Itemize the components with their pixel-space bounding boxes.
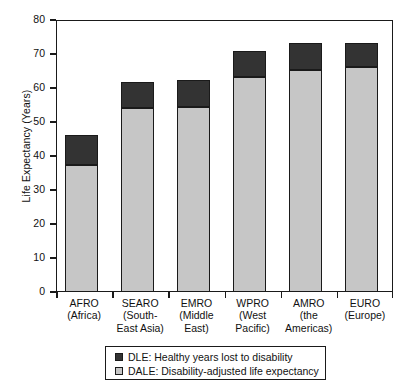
bar-group xyxy=(121,20,154,292)
y-tick-label: 60 xyxy=(0,81,45,93)
plot-area xyxy=(56,20,393,292)
x-axis-category-line: (Europe) xyxy=(337,309,393,321)
y-tick-mark xyxy=(50,87,56,89)
bar-segment-dle xyxy=(121,82,154,108)
x-axis-category-line: Pacific) xyxy=(225,322,281,334)
x-axis-category-line: (the xyxy=(281,309,337,321)
chart-legend: DLE: Healthy years lost to disability DA… xyxy=(105,346,326,380)
bar-segment-dle xyxy=(177,80,210,107)
y-tick-label: 40 xyxy=(0,149,45,161)
bar-segment-dale xyxy=(121,108,154,292)
bar-segment-dle xyxy=(345,43,378,67)
bar-group xyxy=(289,20,322,292)
legend-label-dle: DLE: Healthy years lost to disability xyxy=(128,351,293,363)
y-tick-label: 10 xyxy=(0,251,45,263)
y-tick-label: 30 xyxy=(0,183,45,195)
bar-segment-dale xyxy=(177,107,210,292)
x-axis-category-label: EMRO(MiddleEast) xyxy=(168,297,224,334)
y-tick-label: 50 xyxy=(0,115,45,127)
x-axis-category-line: Americas) xyxy=(281,322,337,334)
x-axis-category-label: EURO(Europe) xyxy=(337,297,393,322)
x-axis-category-label: AMRO(theAmericas) xyxy=(281,297,337,334)
y-tick-mark xyxy=(50,189,56,191)
bar-segment-dale xyxy=(289,70,322,292)
legend-item-dle: DLE: Healthy years lost to disability xyxy=(115,350,325,363)
legend-item-dale: DALE: Disability-adjusted life expectanc… xyxy=(115,364,325,377)
bar-segment-dle xyxy=(233,51,266,77)
bar-segment-dle xyxy=(65,135,98,165)
bar-segment-dale xyxy=(65,165,98,292)
legend-swatch-dale-icon xyxy=(115,367,123,375)
x-axis-category-line: (Middle xyxy=(168,309,224,321)
bar-group xyxy=(65,20,98,292)
x-axis-category-line: (West xyxy=(225,309,281,321)
chart-figure: Life Expectancy (Years) 0102030405060708… xyxy=(0,0,407,390)
y-tick-mark xyxy=(50,257,56,259)
y-tick-mark xyxy=(50,223,56,225)
bar-segment-dale xyxy=(233,77,266,292)
x-axis-category-label: WPRO(WestPacific) xyxy=(225,297,281,334)
bar-segment-dale xyxy=(345,67,378,292)
x-axis-category-line: SEARO xyxy=(112,297,168,309)
bar-segment-dle xyxy=(289,43,322,71)
y-tick-label: 20 xyxy=(0,217,45,229)
x-axis-category-line: EMRO xyxy=(168,297,224,309)
y-tick-mark xyxy=(50,53,56,55)
y-tick-mark xyxy=(50,19,56,21)
legend-label-dale: DALE: Disability-adjusted life expectanc… xyxy=(128,365,319,377)
y-tick-label: 80 xyxy=(0,13,45,25)
bar-group xyxy=(177,20,210,292)
y-tick-mark xyxy=(50,121,56,123)
x-axis-category-line: WPRO xyxy=(225,297,281,309)
x-axis-category-line: EURO xyxy=(337,297,393,309)
y-tick-label: 0 xyxy=(0,285,45,297)
x-axis-category-line: AMRO xyxy=(281,297,337,309)
x-axis-category-line: (Africa) xyxy=(56,309,112,321)
x-axis-category-line: AFRO xyxy=(56,297,112,309)
x-axis-category-line: East Asia) xyxy=(112,322,168,334)
y-tick-label: 70 xyxy=(0,47,45,59)
legend-swatch-dle-icon xyxy=(115,353,123,361)
x-axis-category-line: (South- xyxy=(112,309,168,321)
x-axis-category-label: SEARO(South-East Asia) xyxy=(112,297,168,334)
x-axis-category-line: East) xyxy=(168,322,224,334)
y-tick-mark xyxy=(50,155,56,157)
bar-group xyxy=(233,20,266,292)
x-axis-category-label: AFRO(Africa) xyxy=(56,297,112,322)
bar-group xyxy=(345,20,378,292)
y-axis-title: Life Expectancy (Years) xyxy=(20,46,32,246)
